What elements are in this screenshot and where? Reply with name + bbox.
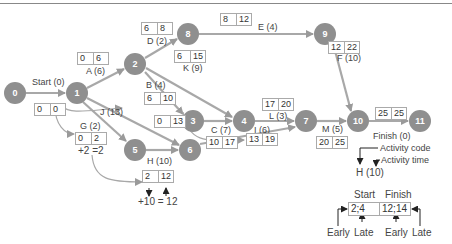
calc-g: +2 =2 [78,145,104,156]
legend-example-activity: H (10) [356,167,384,178]
times-f: 1222 [328,41,360,54]
label-a: A (6) [86,66,105,76]
legend-early-finish: Early [385,227,408,238]
legend-times-box: 2;4 12;14 [348,202,411,216]
node-11: 11 [409,110,431,132]
calc-h: +10 = 12 [138,196,177,207]
label-j: J (13) [100,107,123,117]
times-h: 212 [142,170,174,183]
node-4: 4 [233,110,255,132]
times-i: 1319 [246,133,278,146]
label-h: H (10) [147,156,172,166]
times-finish: 2525 [375,107,407,120]
legend-time-arrow [376,160,380,166]
legend-activity-time: Activity time [381,155,429,165]
label-start: Start (0) [32,77,65,87]
node-1: 1 [66,82,88,104]
node-0: 0 [4,82,26,104]
legend-late-start: Late [354,227,373,238]
times-b: 610 [144,92,176,105]
times-g: 02 [75,132,107,145]
node-5: 5 [124,139,146,161]
label-k: K (9) [183,63,203,73]
label-m: M (5) [322,124,343,134]
times-a: 06 [77,52,109,65]
times-k: 615 [174,50,206,63]
times-c: 1017 [206,136,238,149]
legend-code-arrow [360,148,378,164]
node-10: 10 [347,110,369,132]
times-m: 2025 [316,136,348,149]
label-b: B (4) [146,80,166,90]
node-6: 6 [179,139,201,161]
label-d: D (2) [147,36,167,46]
label-finish: Finish (0) [373,131,411,141]
node-2: 2 [124,53,146,75]
times-l: 1720 [262,98,294,111]
legend-early-start: Early [327,227,350,238]
legend-late-finish-arrow [412,209,420,226]
label-e: E (4) [258,22,278,32]
node-8: 8 [177,23,199,45]
legend-early-start-arrow [338,209,347,226]
times-e: 812 [220,13,252,26]
legend-late-finish: Late [412,227,431,238]
times-d: 68 [141,22,173,35]
legend-finish-header: Finish [385,189,412,200]
legend-start-header: Start [354,189,375,200]
label-f: F (10) [337,53,361,63]
label-l: L (3) [269,111,287,121]
times-start: 00 [34,103,66,116]
label-c: C (7) [211,125,231,135]
label-g: G (2) [80,121,101,131]
node-7: 7 [295,110,317,132]
times-j: 013 [154,115,186,128]
legend-activity-code: Activity code [380,143,431,153]
